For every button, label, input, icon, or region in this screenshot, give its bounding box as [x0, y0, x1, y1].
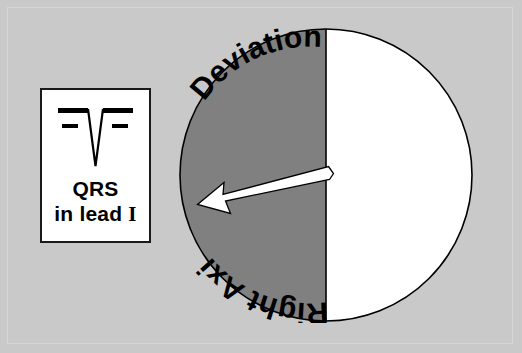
axis-deviation-circle: Deviation Right Axis — [178, 27, 474, 323]
normal-axis-half — [326, 29, 472, 321]
calibration-dash-right — [112, 124, 128, 128]
calibration-dash-left — [62, 124, 78, 128]
baseline-left — [58, 108, 88, 113]
qrs-legend-box: QRS in lead I — [40, 88, 151, 243]
qrs-title: QRS — [42, 176, 149, 201]
qrs-lead-text: in lead — [54, 202, 122, 225]
baseline-right — [103, 108, 133, 113]
qrs-lead-numeral: I — [128, 202, 136, 226]
qrs-waveform — [42, 90, 149, 182]
figure-canvas: QRS in lead I Deviation — [0, 0, 522, 353]
qrs-lead-label: in lead I — [42, 201, 149, 227]
s-wave-deflection — [88, 109, 103, 166]
qrs-caption: QRS in lead I — [42, 176, 149, 227]
